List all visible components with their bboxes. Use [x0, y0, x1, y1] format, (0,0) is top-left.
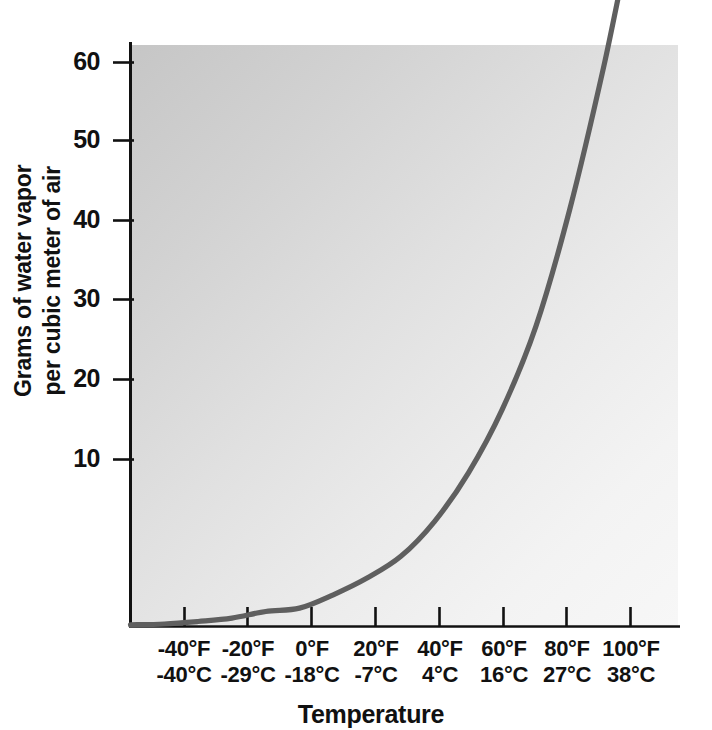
y-axis-title: Grams of water vapor per cubic meter of …	[9, 61, 67, 501]
data-curve-saturation	[131, 0, 672, 625]
x-tick-celsius: 38°C	[586, 662, 676, 688]
y-axis-title-line1: Grams of water vapor	[9, 61, 38, 501]
y-axis-title-line2: per cubic meter of air	[38, 61, 67, 501]
x-axis-title: Temperature	[236, 700, 506, 729]
x-tick-marks	[185, 607, 631, 627]
x-tick-label: 100°F 38°C	[586, 636, 676, 688]
chart-figure: 60 50 40 30 20 10 -40°F -40°C -20°F -29°…	[0, 0, 712, 730]
chart-svg	[0, 0, 712, 730]
x-tick-fahrenheit: 100°F	[586, 636, 676, 662]
